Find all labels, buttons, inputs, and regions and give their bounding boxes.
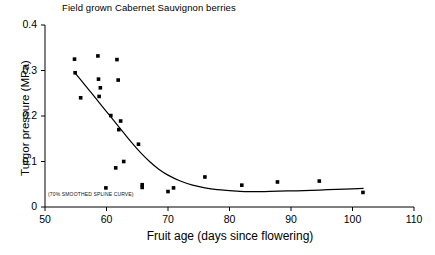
data-point-20	[203, 175, 207, 179]
data-point-19	[172, 186, 176, 190]
data-point-15	[104, 186, 108, 190]
data-point-23	[317, 179, 321, 183]
data-point-6	[97, 95, 101, 99]
data-point-22	[276, 180, 280, 184]
x-tick-label-4: 90	[276, 213, 306, 225]
x-tick-label-6: 110	[399, 213, 429, 225]
data-point-5	[99, 86, 103, 90]
data-point-4	[97, 77, 101, 81]
data-point-24	[361, 191, 365, 195]
data-point-1	[73, 71, 77, 75]
x-tick-label-1: 60	[92, 213, 122, 225]
data-point-12	[137, 142, 141, 146]
y-tick-label-1: 0.1	[7, 155, 37, 167]
data-point-18	[166, 190, 170, 194]
y-tick-label-3: 0.3	[7, 64, 37, 76]
x-tick-label-0: 50	[30, 213, 60, 225]
data-point-2	[79, 96, 83, 100]
data-point-7	[115, 58, 119, 62]
data-point-0	[73, 57, 77, 61]
data-point-11	[117, 128, 121, 132]
x-tick-label-5: 100	[338, 213, 368, 225]
data-point-10	[119, 119, 123, 123]
x-tick-label-2: 70	[153, 213, 183, 225]
data-point-21	[240, 183, 244, 187]
data-point-17	[140, 186, 144, 190]
x-tick-label-3: 80	[215, 213, 245, 225]
y-tick-label-0: 0	[7, 200, 37, 212]
data-point-8	[116, 78, 120, 82]
y-tick-label-4: 0.4	[7, 18, 37, 30]
y-tick-label-2: 0.2	[7, 109, 37, 121]
data-point-13	[122, 160, 126, 164]
data-point-9	[109, 114, 113, 118]
data-point-3	[96, 54, 100, 58]
data-point-14	[114, 166, 118, 170]
spline-curve-annotation: (70% SMOOTHED SPLINE CURVE)	[48, 191, 134, 197]
spline-curve	[75, 72, 364, 191]
chart-figure: Field grown Cabernet Sauvignon berries T…	[0, 0, 435, 255]
